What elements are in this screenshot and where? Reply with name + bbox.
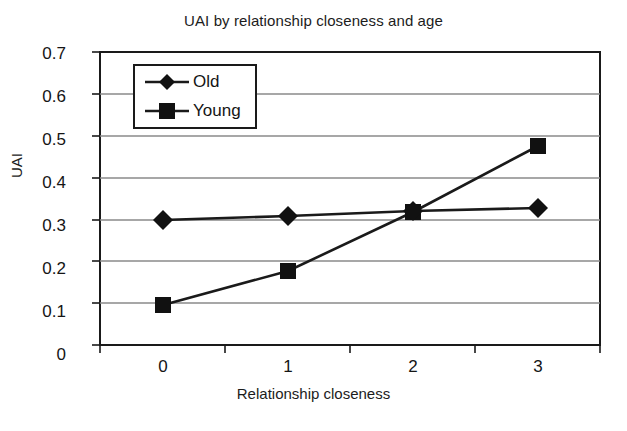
legend-item-old: Old	[135, 69, 259, 99]
data-point-young	[155, 297, 171, 313]
x-axis-ticks	[100, 345, 600, 353]
data-point-young	[280, 263, 296, 279]
chart-legend: Old Young	[133, 64, 257, 129]
plot-area	[0, 0, 627, 431]
legend-label-old: Old	[193, 72, 219, 92]
legend-marker-diamond-icon	[143, 69, 191, 95]
legend-marker-square-icon	[143, 98, 191, 124]
legend-item-young: Young	[135, 98, 259, 128]
data-point-young	[530, 138, 546, 154]
chart-container: UAI by relationship closeness and age UA…	[0, 0, 627, 431]
y-axis-ticks	[92, 52, 100, 345]
legend-label-young: Young	[193, 101, 241, 121]
